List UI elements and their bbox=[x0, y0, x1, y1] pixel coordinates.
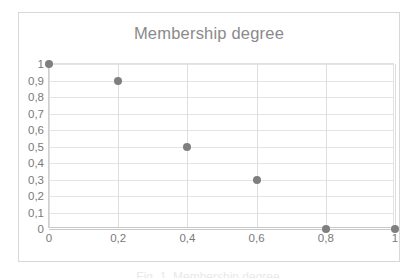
y-axis-tick-label: 0,3 bbox=[28, 174, 44, 186]
y-axis-tick-label: 0,6 bbox=[28, 124, 44, 136]
data-point[interactable] bbox=[391, 225, 399, 233]
x-axis-tick-label: 0,2 bbox=[110, 232, 126, 244]
gridline-horizontal bbox=[49, 163, 393, 164]
x-axis-tick-label: 0,6 bbox=[249, 232, 265, 244]
plot-area: 00,10,20,30,40,50,60,70,80,91 00,20,40,6… bbox=[48, 63, 394, 228]
y-axis-tick-label: 0,1 bbox=[28, 207, 44, 219]
figure-caption-fragment: Fig. 1. Membership degree bbox=[0, 270, 416, 278]
y-axis-tick-label: 0,7 bbox=[28, 108, 44, 120]
gridline-vertical bbox=[395, 64, 396, 227]
x-axis-tick-label: 1 bbox=[392, 232, 398, 244]
data-point[interactable] bbox=[114, 77, 122, 85]
x-axis-tick-label: 0,8 bbox=[318, 232, 334, 244]
data-point[interactable] bbox=[322, 225, 330, 233]
y-axis-tick-label: 0,5 bbox=[28, 141, 44, 153]
y-axis-tick-label: 0,8 bbox=[28, 91, 44, 103]
gridline-horizontal bbox=[49, 97, 393, 98]
data-point[interactable] bbox=[253, 176, 261, 184]
y-axis-tick-label: 1 bbox=[38, 58, 44, 70]
y-axis-tick-label: 0 bbox=[38, 223, 44, 235]
chart-title: Membership degree bbox=[19, 24, 399, 43]
data-point[interactable] bbox=[45, 60, 53, 68]
gridline-horizontal bbox=[49, 114, 393, 115]
y-axis-tick-label: 0,9 bbox=[28, 75, 44, 87]
figure-frame: Membership degree 00,10,20,30,40,50,60,7… bbox=[18, 12, 400, 262]
gridline-vertical bbox=[49, 64, 50, 227]
y-axis-tick-label: 0,2 bbox=[28, 190, 44, 202]
gridline-vertical bbox=[326, 64, 327, 227]
gridline-horizontal bbox=[49, 229, 393, 230]
gridline-horizontal bbox=[49, 81, 393, 82]
gridline-vertical bbox=[257, 64, 258, 227]
gridline-horizontal bbox=[49, 196, 393, 197]
x-axis-tick-label: 0,4 bbox=[179, 232, 195, 244]
data-point[interactable] bbox=[183, 143, 191, 151]
gridline-horizontal bbox=[49, 213, 393, 214]
y-axis-tick-label: 0,4 bbox=[28, 157, 44, 169]
gridline-horizontal bbox=[49, 147, 393, 148]
gridline-horizontal bbox=[49, 180, 393, 181]
gridline-horizontal bbox=[49, 64, 393, 65]
gridline-horizontal bbox=[49, 130, 393, 131]
x-axis-tick-label: 0 bbox=[46, 232, 52, 244]
gridline-vertical bbox=[118, 64, 119, 227]
